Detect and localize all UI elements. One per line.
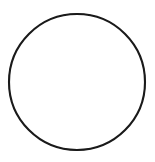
- outer-circle-outline: [9, 14, 145, 150]
- geometric-figure: [0, 0, 155, 162]
- figure-container: Hatched partitioned circle A circle divi…: [0, 0, 155, 162]
